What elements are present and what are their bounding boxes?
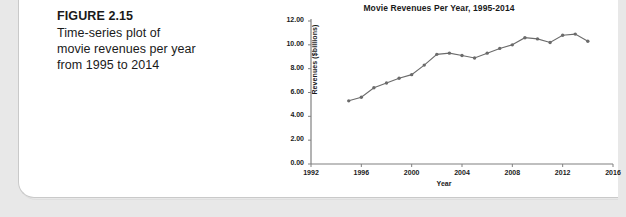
y-tick-label: 10.00 xyxy=(274,40,304,47)
y-tick-label: 8.00 xyxy=(274,64,304,71)
data-point xyxy=(385,81,388,84)
data-point xyxy=(360,96,363,99)
y-tick-label: 0.00 xyxy=(274,159,304,166)
data-point xyxy=(511,43,514,46)
x-tick-label: 2016 xyxy=(598,169,626,176)
data-point xyxy=(460,54,463,57)
y-tick-label: 2.00 xyxy=(274,135,304,142)
data-point xyxy=(410,73,413,76)
time-series-chart: Movie Revenues Per Year, 1995-2014 Reven… xyxy=(269,0,626,198)
caption-line-3: from 1995 to 2014 xyxy=(57,57,257,73)
x-tick-label: 1996 xyxy=(346,169,376,176)
figure-caption: FIGURE 2.15 Time-series plot of movie re… xyxy=(57,8,257,73)
x-tick-label: 1992 xyxy=(296,169,326,176)
data-point xyxy=(473,56,476,59)
data-point xyxy=(561,34,564,37)
data-point xyxy=(347,99,350,102)
data-point xyxy=(435,53,438,56)
x-tick-label: 2004 xyxy=(447,169,477,176)
caption-line-1: Time-series plot of xyxy=(57,25,257,41)
data-point xyxy=(448,51,451,54)
data-point xyxy=(498,47,501,50)
x-tick-label: 2000 xyxy=(397,169,427,176)
series-line xyxy=(349,34,588,101)
data-point xyxy=(372,86,375,89)
data-point xyxy=(423,63,426,66)
axes xyxy=(308,19,613,167)
x-tick-label: 2008 xyxy=(497,169,527,176)
data-point xyxy=(397,77,400,80)
data-point xyxy=(548,41,551,44)
data-point xyxy=(574,32,577,35)
data-series xyxy=(347,32,589,102)
x-tick-label: 2012 xyxy=(548,169,578,176)
data-point xyxy=(586,40,589,43)
data-point xyxy=(485,51,488,54)
data-point xyxy=(536,37,539,40)
y-tick-label: 4.00 xyxy=(274,111,304,118)
y-tick-label: 6.00 xyxy=(274,88,304,95)
y-tick-label: 12.00 xyxy=(274,16,304,23)
data-point xyxy=(523,36,526,39)
figure-card: FIGURE 2.15 Time-series plot of movie re… xyxy=(18,0,618,198)
caption-line-2: movie revenues per year xyxy=(57,41,257,57)
figure-number-label: FIGURE 2.15 xyxy=(57,8,257,24)
